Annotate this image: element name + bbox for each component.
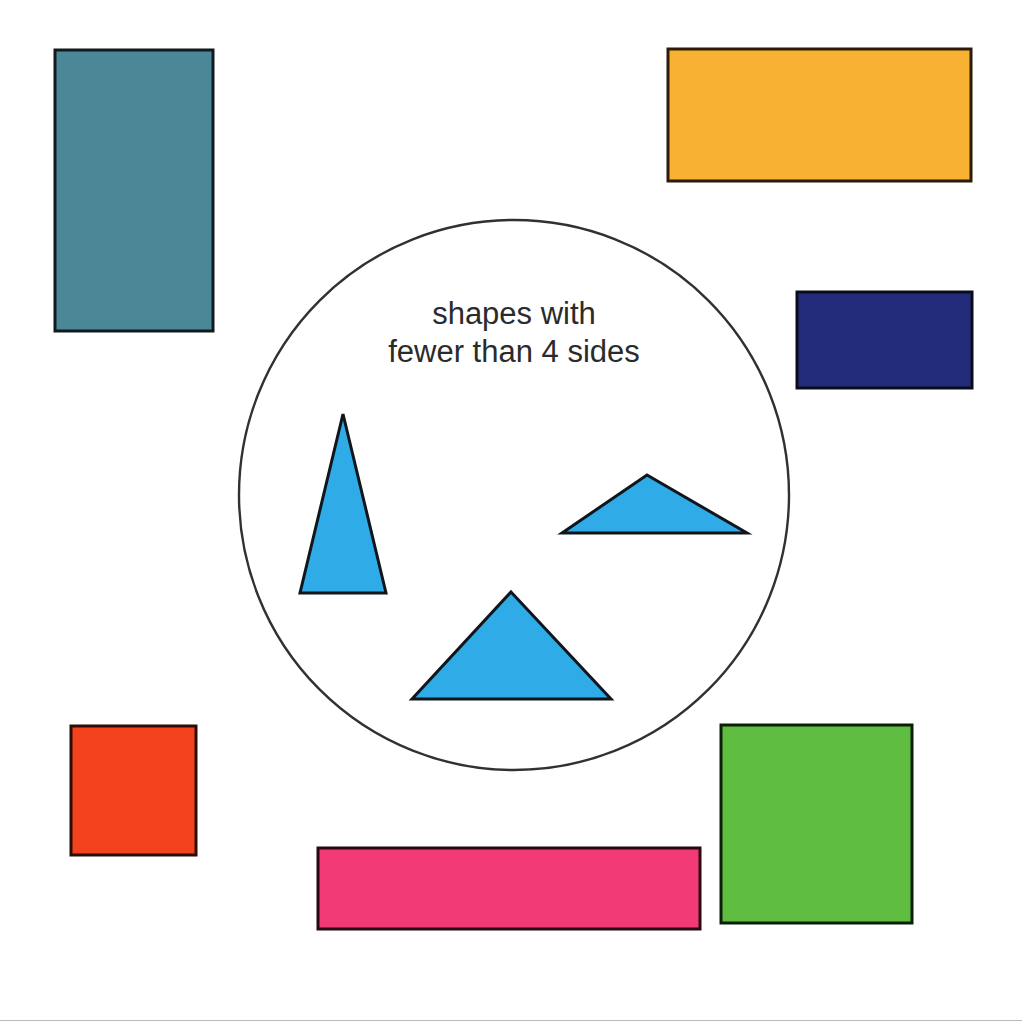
shapes-outside-circle: [55, 49, 972, 929]
wide-triangle[interactable]: [412, 592, 611, 699]
sorting-circle-label-line-1: shapes with: [432, 296, 596, 331]
shapes-inside-circle: [300, 414, 747, 699]
shape-sorting-figure: shapes with fewer than 4 sides: [0, 0, 1022, 1026]
worksheet-canvas: shapes with fewer than 4 sides: [0, 0, 1022, 1026]
green-square[interactable]: [721, 725, 912, 923]
navy-rectangle[interactable]: [797, 292, 972, 388]
pink-rectangle[interactable]: [318, 848, 700, 929]
tall-triangle[interactable]: [300, 414, 386, 593]
orange-rectangle[interactable]: [668, 49, 971, 181]
red-square[interactable]: [71, 726, 196, 855]
teal-rectangle[interactable]: [55, 50, 213, 331]
page-bottom-rule: [0, 1020, 1022, 1021]
sorting-circle-label-line-2: fewer than 4 sides: [388, 334, 640, 369]
flat-triangle[interactable]: [562, 475, 747, 533]
